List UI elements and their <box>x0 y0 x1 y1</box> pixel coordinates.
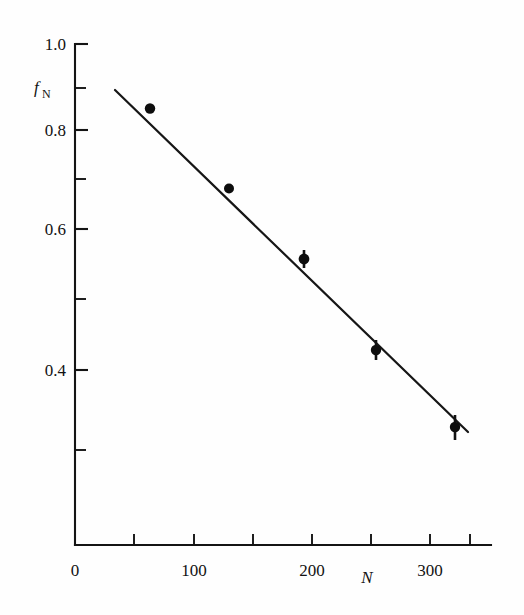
x-tick-label-300: 300 <box>417 561 443 580</box>
fit-line-group <box>115 90 468 432</box>
y-axis-title-subscript: N <box>42 87 51 101</box>
y-tick-label-0.4: 0.4 <box>45 361 67 380</box>
data-marker <box>450 422 460 432</box>
data-marker <box>145 103 155 113</box>
y-tick-label-0.8: 0.8 <box>45 121 66 140</box>
data-point <box>299 250 310 268</box>
data-point <box>371 340 381 360</box>
x-tick-label-0: 0 <box>71 561 80 580</box>
x-tick-marks <box>134 534 470 545</box>
x-tick-labels: 0 100 200 300 <box>71 561 443 580</box>
y-axis-title-symbol: f <box>34 78 41 97</box>
data-point <box>450 415 460 440</box>
data-marker <box>224 184 234 194</box>
data-marker <box>299 254 310 265</box>
data-marker <box>371 345 381 355</box>
y-tick-label-1.0: 1.0 <box>45 35 66 54</box>
x-axis-title: N <box>360 568 374 587</box>
y-tick-label-0.6: 0.6 <box>45 220 66 239</box>
x-tick-label-200: 200 <box>299 561 325 580</box>
x-tick-label-100: 100 <box>181 561 207 580</box>
y-axis-title: f N <box>34 78 51 101</box>
data-point <box>224 184 234 194</box>
data-point <box>145 103 155 113</box>
linear-fit-line <box>115 90 468 432</box>
y-tick-marks <box>75 44 88 450</box>
scatter-plot: 1.0 0.8 0.6 0.4 0 100 200 300 f N N <box>0 0 524 615</box>
axis-group <box>75 44 491 545</box>
figure-container: 1.0 0.8 0.6 0.4 0 100 200 300 f N N <box>0 0 524 615</box>
